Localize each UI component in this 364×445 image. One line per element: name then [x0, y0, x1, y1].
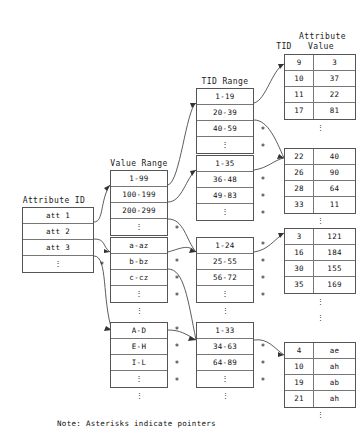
- table-row[interactable]: 155: [314, 261, 355, 277]
- pointer-asterisk: *: [259, 259, 267, 267]
- table-row[interactable]: 22: [314, 87, 355, 103]
- table-row[interactable]: 4: [285, 343, 313, 359]
- table-row[interactable]: 16: [285, 245, 313, 261]
- table-row[interactable]: ae: [314, 343, 355, 359]
- table-row[interactable]: 1-24: [197, 238, 253, 254]
- tid-column: 4 10 19 21: [285, 343, 314, 407]
- pointer-asterisk: *: [173, 361, 181, 369]
- table-row[interactable]: ⋮: [197, 371, 253, 387]
- table-row[interactable]: att 1: [23, 208, 93, 224]
- table-row[interactable]: 1-33: [197, 323, 253, 339]
- table-row[interactable]: c-cz: [111, 270, 167, 286]
- table-row[interactable]: 11: [314, 197, 355, 213]
- table-row[interactable]: 37: [314, 71, 355, 87]
- value-range-table-2: a-az b-bz c-cz ⋮: [110, 237, 168, 303]
- table-row[interactable]: ab: [314, 375, 355, 391]
- table-row[interactable]: 121: [314, 229, 355, 245]
- vertical-ellipsis: ⋮: [220, 308, 230, 315]
- vertical-ellipsis: ⋮: [315, 125, 325, 132]
- table-row[interactable]: 81: [314, 103, 355, 119]
- table-row[interactable]: 90: [314, 165, 355, 181]
- value-range-table-3: A-D E-H I-L ⋮: [110, 322, 168, 388]
- tid-column: 9 10 11 17: [285, 55, 314, 119]
- table-row[interactable]: ah: [314, 391, 355, 407]
- table-row[interactable]: ⋮: [23, 256, 93, 272]
- tid-range-table-1: 1-19 20-39 40-59 ⋮: [196, 88, 254, 154]
- table-row[interactable]: 56-72: [197, 270, 253, 286]
- table-row[interactable]: I-L: [111, 355, 167, 371]
- vertical-ellipsis: ⋮: [134, 393, 144, 400]
- vertical-ellipsis: ⋮: [315, 412, 325, 419]
- table-row[interactable]: 35: [285, 277, 313, 293]
- header-tid: TID: [269, 42, 299, 52]
- table-row[interactable]: 1-99: [111, 171, 167, 187]
- table-row[interactable]: a-az: [111, 238, 167, 254]
- tid-range-table-3: 1-24 25-55 56-72 ⋮: [196, 237, 254, 303]
- table-row[interactable]: 19: [285, 375, 313, 391]
- table-row[interactable]: 40-59: [197, 121, 253, 137]
- pointer-asterisk: *: [259, 194, 267, 202]
- table-row[interactable]: 11: [285, 87, 313, 103]
- table-row[interactable]: 40: [314, 149, 355, 165]
- index-structure-diagram: Attribute ID Value Range TID Range TID A…: [0, 0, 364, 445]
- table-row[interactable]: 10: [285, 71, 313, 87]
- table-row[interactable]: 30: [285, 261, 313, 277]
- pointer-asterisk: *: [259, 144, 267, 152]
- table-row[interactable]: b-bz: [111, 254, 167, 270]
- table-row[interactable]: 3: [285, 229, 313, 245]
- attribute-id-table: att 1 att 2 att 3 ⋮: [22, 207, 94, 273]
- diagram-note: Note: Asterisks indicate pointers: [57, 419, 216, 428]
- table-row[interactable]: 64-89: [197, 355, 253, 371]
- tid-value-table-2: 22 26 28 33 40 90 64 11: [284, 148, 356, 214]
- table-row[interactable]: 20-39: [197, 105, 253, 121]
- table-row[interactable]: 34-63: [197, 339, 253, 355]
- table-row[interactable]: 100-199: [111, 187, 167, 203]
- table-row[interactable]: 26: [285, 165, 313, 181]
- table-row[interactable]: 200-299: [111, 203, 167, 219]
- table-row[interactable]: 28: [285, 181, 313, 197]
- pointer-asterisk: *: [259, 293, 267, 301]
- tid-value-table-3: 3 16 30 35 121 184 155 169: [284, 228, 356, 294]
- table-row[interactable]: ⋮: [111, 286, 167, 302]
- table-row[interactable]: ⋮: [197, 137, 253, 153]
- vertical-ellipsis: ⋮: [134, 308, 144, 315]
- value-range-table-1: 1-99 100-199 200-299 ⋮: [110, 170, 168, 236]
- table-row[interactable]: ⋮: [111, 219, 167, 235]
- table-row[interactable]: ⋮: [197, 204, 253, 220]
- table-row[interactable]: 3: [314, 55, 355, 71]
- table-row[interactable]: A-D: [111, 323, 167, 339]
- attribute-value-column: ae ah ab ah: [314, 343, 355, 407]
- table-row[interactable]: 36-48: [197, 172, 253, 188]
- vertical-ellipsis: ⋮: [220, 393, 230, 400]
- table-row[interactable]: 21: [285, 391, 313, 407]
- vertical-ellipsis: ⋮: [315, 315, 325, 322]
- table-row[interactable]: E-H: [111, 339, 167, 355]
- tid-value-table-1: 9 10 11 17 3 37 22 81: [284, 54, 356, 120]
- table-row[interactable]: ⋮: [197, 286, 253, 302]
- table-row[interactable]: ⋮: [111, 371, 167, 387]
- table-row[interactable]: 49-83: [197, 188, 253, 204]
- header-attribute-id: Attribute ID: [14, 196, 94, 206]
- table-row[interactable]: att 3: [23, 240, 93, 256]
- tid-range-table-2: 1-35 36-48 49-83 ⋮: [196, 155, 254, 221]
- table-row[interactable]: 169: [314, 277, 355, 293]
- pointer-asterisk: *: [173, 259, 181, 267]
- table-row[interactable]: ah: [314, 359, 355, 375]
- table-row[interactable]: 184: [314, 245, 355, 261]
- tid-value-table-4: 4 10 19 21 ae ah ab ah: [284, 342, 356, 408]
- header-attribute-value-line1: Attribute: [299, 32, 343, 42]
- table-row[interactable]: 25-55: [197, 254, 253, 270]
- table-row[interactable]: 1-35: [197, 156, 253, 172]
- pointer-asterisk: *: [259, 177, 267, 185]
- pointer-asterisk: *: [259, 242, 267, 250]
- table-row[interactable]: 22: [285, 149, 313, 165]
- pointer-asterisk: *: [259, 344, 267, 352]
- table-row[interactable]: 64: [314, 181, 355, 197]
- table-row[interactable]: 17: [285, 103, 313, 119]
- table-row[interactable]: 1-19: [197, 89, 253, 105]
- table-row[interactable]: att 2: [23, 224, 93, 240]
- table-row[interactable]: 9: [285, 55, 313, 71]
- table-row[interactable]: 10: [285, 359, 313, 375]
- table-row[interactable]: 33: [285, 197, 313, 213]
- vertical-ellipsis: ⋮: [315, 299, 325, 306]
